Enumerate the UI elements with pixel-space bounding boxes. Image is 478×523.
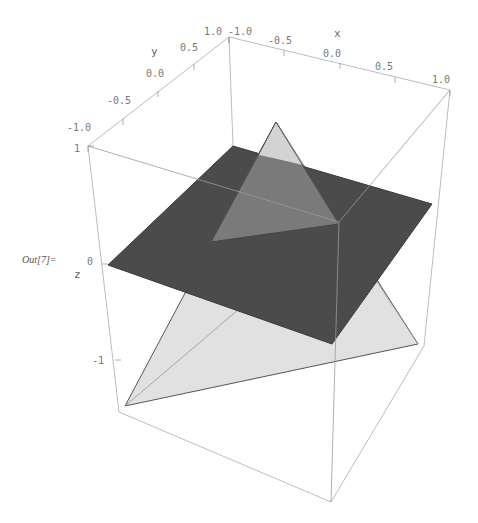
z-axis-ticks bbox=[88, 146, 121, 360]
x-axis-label: x bbox=[334, 27, 341, 40]
x-axis-ticks bbox=[229, 37, 450, 96]
y-axis-label: y bbox=[151, 45, 158, 58]
3d-plot[interactable]: 1.0 -1.0 -0.5 0.0 0.5 1.0 0.5 0.0 -0.5 -… bbox=[0, 0, 478, 523]
z-axis-label: z bbox=[74, 268, 81, 281]
x-tick: 0.5 bbox=[375, 61, 393, 72]
z-tick: -1 bbox=[92, 355, 104, 366]
x-tick: -0.5 bbox=[268, 35, 292, 46]
y-tick: -0.5 bbox=[107, 95, 131, 106]
z-tick: 1 bbox=[74, 143, 80, 154]
y-tick: 1.0 bbox=[204, 26, 222, 37]
y-tick: 0.0 bbox=[146, 68, 164, 79]
y-tick: 0.5 bbox=[180, 42, 198, 53]
x-tick: 1.0 bbox=[432, 74, 450, 85]
z-tick: 0 bbox=[87, 256, 93, 267]
x-tick: 0.0 bbox=[323, 48, 341, 59]
y-tick: -1.0 bbox=[67, 122, 91, 133]
x-tick: -1.0 bbox=[228, 26, 252, 37]
